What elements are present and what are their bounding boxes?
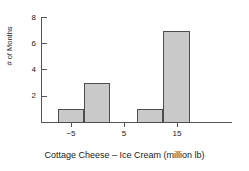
y-axis-line — [41, 17, 42, 123]
y-tick-label-2: 2 — [18, 92, 36, 100]
x-tick-label-15: 15 — [162, 129, 192, 138]
bar-bin-2 — [84, 83, 110, 123]
bar-bin-1 — [58, 109, 84, 123]
y-axis-title: # of Months — [6, 18, 14, 74]
bar-bin-3 — [137, 109, 163, 123]
x-tick-mark-5 — [124, 122, 125, 127]
x-axis-title: Cottage Cheese – Ice Cream (million lb) — [0, 150, 249, 160]
y-tick-label-8: 8 — [18, 14, 36, 22]
x-tick-label-5: 5 — [109, 129, 139, 138]
y-tick-label-4: 4 — [18, 66, 36, 74]
y-tick-label-6: 6 — [18, 40, 36, 48]
histogram-figure: # of Months 8 6 4 2 −5 5 15 Cottage Chee… — [0, 0, 249, 171]
x-tick-mark-minus5 — [71, 122, 72, 127]
bar-bin-4 — [163, 31, 190, 123]
x-tick-mark-15 — [177, 122, 178, 127]
x-tick-label-minus5: −5 — [56, 129, 86, 138]
